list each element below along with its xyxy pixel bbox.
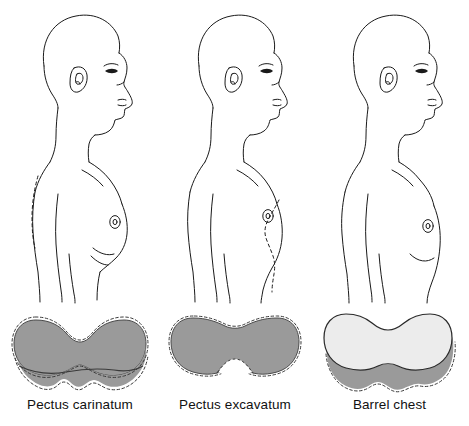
panel-pectus-excavatum: Pectus excavatum [155, 0, 315, 426]
cross-section-barrel-chest [310, 300, 469, 395]
caption-barrel-chest: Barrel chest [310, 396, 469, 413]
panel-barrel-chest: Barrel chest [310, 0, 469, 426]
cross-section-pectus-excavatum [155, 300, 315, 395]
cross-section-pectus-carinatum [0, 300, 160, 395]
chest-deformity-figure: Pectus carinatum [0, 0, 469, 426]
profile-illustration-pectus-excavatum [155, 4, 315, 304]
caption-pectus-excavatum: Pectus excavatum [155, 396, 315, 413]
profile-illustration-pectus-carinatum [0, 4, 160, 304]
caption-pectus-carinatum: Pectus carinatum [0, 396, 160, 413]
profile-illustration-barrel-chest [310, 4, 469, 304]
panel-pectus-carinatum: Pectus carinatum [0, 0, 160, 426]
